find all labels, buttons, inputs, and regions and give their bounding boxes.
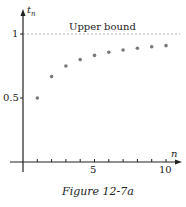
data-point	[107, 51, 111, 55]
data-points	[36, 44, 168, 100]
data-point	[150, 45, 154, 49]
x-tick-label-10: 10	[159, 164, 172, 175]
y-tick-label-1: 1	[12, 28, 18, 39]
data-point	[78, 58, 82, 62]
figure-caption: Figure 12-7a	[62, 185, 134, 198]
data-point	[136, 46, 140, 50]
upper-bound-label: Upper bound	[69, 21, 136, 32]
data-point	[121, 48, 125, 52]
data-point	[50, 75, 54, 79]
data-point	[36, 96, 40, 100]
data-point	[93, 54, 97, 58]
y-tick-label-0.5: 0.5	[3, 92, 19, 103]
x-axis-arrow-icon	[175, 160, 182, 165]
y-axis-label: tn	[27, 4, 36, 18]
y-axis-arrow-icon	[21, 9, 26, 16]
data-point	[64, 64, 68, 68]
data-point	[164, 44, 168, 48]
x-tick-label-5: 5	[90, 164, 96, 175]
x-axis-label: n	[171, 148, 177, 159]
